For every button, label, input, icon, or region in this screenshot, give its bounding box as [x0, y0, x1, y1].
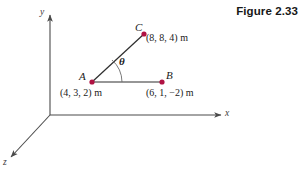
figure-caption: Figure 2.33 [236, 5, 298, 17]
point-marker-a [89, 79, 94, 84]
y-axis-label: y [40, 8, 44, 18]
point-coordinates-c: (8, 8, 4) m [146, 33, 188, 43]
angle-theta-label: θ [119, 56, 125, 67]
point-coordinates-b: (6, 1, −2) m [146, 88, 194, 98]
vector-diagram-canvas [0, 0, 304, 169]
point-label-b: B [166, 70, 173, 81]
point-label-c: C [135, 22, 142, 33]
figure-container: Figure 2.33 y x z A (4, 3, 2) m B (6, 1,… [0, 0, 304, 169]
point-label-a: A [79, 71, 86, 82]
z-axis-label: z [3, 158, 7, 168]
point-coordinates-a: (4, 3, 2) m [60, 88, 102, 98]
segment-a-c [92, 34, 144, 82]
z-axis-line [11, 115, 50, 157]
point-marker-b [159, 79, 164, 84]
x-axis-label: x [225, 109, 229, 119]
